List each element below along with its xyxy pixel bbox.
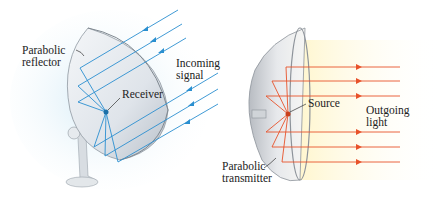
label-line: transmitter [222, 172, 272, 184]
label-receiver: Receiver [122, 88, 163, 100]
label-line: Outgoing [366, 104, 409, 116]
label-parabolic-reflector: Parabolic reflector [22, 44, 65, 68]
parabolic-reflector-illustration [10, 10, 210, 190]
label-parabolic-transmitter: Parabolic transmitter [222, 160, 272, 184]
label-line: Parabolic [222, 160, 272, 172]
label-outgoing-light: Outgoing light [366, 104, 409, 128]
label-source: Source [308, 97, 340, 109]
label-incoming-signal: Incoming signal [176, 57, 220, 81]
source-dot [286, 112, 291, 117]
label-line: reflector [22, 56, 65, 68]
parabolic-transmitter-illustration [249, 28, 443, 181]
label-line: Parabolic [22, 44, 65, 56]
receiver-dot [104, 110, 109, 115]
label-line: signal [176, 69, 220, 81]
label-line: light [366, 116, 409, 128]
label-line: Incoming [176, 57, 220, 69]
